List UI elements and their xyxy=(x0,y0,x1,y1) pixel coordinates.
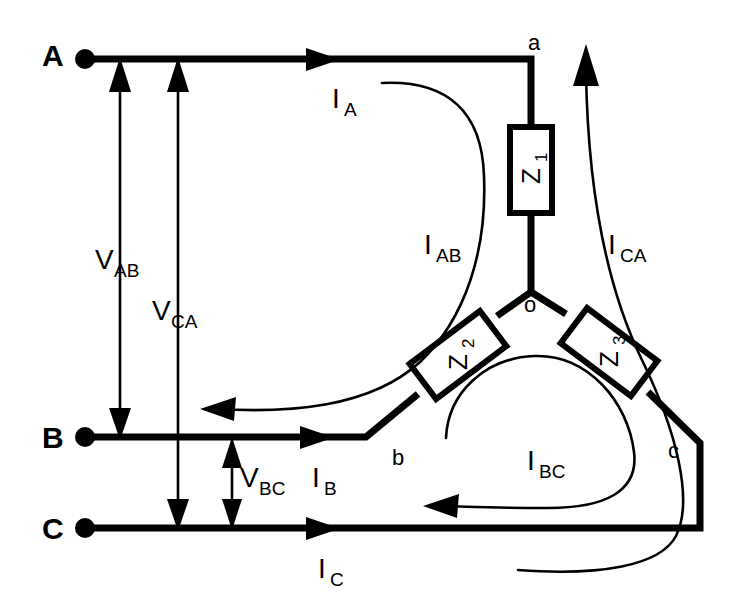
ica-arrowhead xyxy=(573,44,599,86)
voltage-vca-base: V xyxy=(152,295,171,326)
voltage-label-vbc: V BC xyxy=(240,462,285,499)
voltage-label-vca: V CA xyxy=(152,295,198,332)
impedance-z1-subscript: 1 xyxy=(532,153,551,162)
line-current-label-ia: I A xyxy=(332,83,357,120)
terminal-label-b: B xyxy=(42,421,64,454)
phase-current-ica-curve xyxy=(518,44,683,572)
iab-arrowhead xyxy=(200,397,236,421)
voltage-arrow-vca xyxy=(167,57,189,531)
impedance-z2-base: Z xyxy=(443,354,473,370)
terminal-dot-a xyxy=(75,49,95,69)
impedance-z3-base: Z xyxy=(594,351,624,367)
voltage-vbc-base: V xyxy=(240,462,259,493)
voltage-arrow-vbc xyxy=(222,437,242,530)
line-current-ic-arrowhead xyxy=(306,517,340,540)
phase-current-ibc-subscript: BC xyxy=(539,461,565,482)
terminal-dot-b xyxy=(75,427,95,447)
phase-current-iab-subscript: AB xyxy=(436,245,461,266)
line-current-ib-arrowhead xyxy=(300,426,334,449)
line-current-label-ic: I C xyxy=(318,553,344,590)
voltage-label-vab: V AB xyxy=(95,244,139,281)
load-node-label-a: a xyxy=(528,30,541,55)
line-current-ic-subscript: C xyxy=(330,569,344,590)
line-current-ia-arrowhead xyxy=(306,48,340,71)
impedance-z1: Z 1 xyxy=(510,127,552,213)
circuit-svg: Z 1 Z 2 Z 3 xyxy=(0,0,751,608)
load-node-label-o: o xyxy=(524,292,536,317)
impedance-z2-subscript: 2 xyxy=(459,339,478,348)
line-current-ib-base: I xyxy=(312,462,320,493)
phase-current-label-ica: I CA xyxy=(608,229,647,266)
circuit-diagram: Z 1 Z 2 Z 3 xyxy=(0,0,751,608)
terminal-dot-c xyxy=(75,518,95,538)
impedance-z2: Z 2 xyxy=(410,311,508,401)
z3-to-o-wire xyxy=(531,292,566,314)
line-current-label-ib: I B xyxy=(312,462,337,499)
phase-current-label-iab: I AB xyxy=(424,229,461,266)
phase-current-iab-base: I xyxy=(424,229,432,260)
load-node-label-b: b xyxy=(392,445,404,470)
terminal-label-c: C xyxy=(42,512,64,545)
line-current-ib-subscript: B xyxy=(324,478,337,499)
terminal-label-a: A xyxy=(42,39,64,72)
vbc-arrowhead-up xyxy=(222,437,242,468)
phase-current-ica-base: I xyxy=(608,229,616,260)
voltage-vab-base: V xyxy=(95,244,114,275)
voltage-vbc-subscript: BC xyxy=(259,478,285,499)
voltage-vab-subscript: AB xyxy=(114,260,139,281)
voltage-vca-subscript: CA xyxy=(171,311,198,332)
ibc-arrowhead xyxy=(423,494,459,518)
impedance-z1-base: Z xyxy=(516,168,546,184)
line-current-ia-subscript: A xyxy=(344,99,357,120)
phase-current-ica-subscript: CA xyxy=(620,245,647,266)
phase-current-ibc-base: I xyxy=(527,445,535,476)
impedance-z3-subscript: 3 xyxy=(610,336,629,345)
line-current-ia-base: I xyxy=(332,83,340,114)
load-node-label-c: c xyxy=(668,438,679,463)
phase-current-label-ibc: I BC xyxy=(527,445,565,482)
line-b-wire xyxy=(85,394,418,437)
line-current-ic-base: I xyxy=(318,553,326,584)
impedance-z3: Z 3 xyxy=(561,305,660,396)
